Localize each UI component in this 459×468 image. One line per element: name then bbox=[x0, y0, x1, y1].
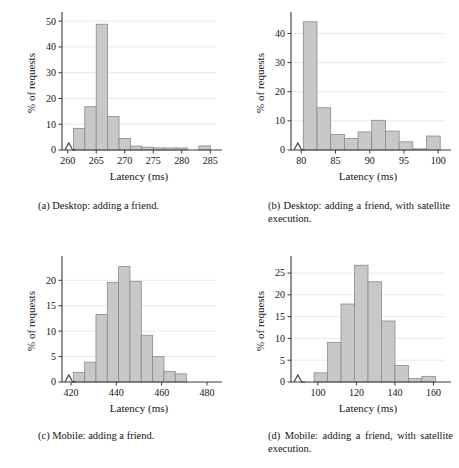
x-tick-label: 90 bbox=[365, 155, 375, 166]
histogram-bar bbox=[368, 282, 381, 382]
y-axis-title-group: % of requests bbox=[25, 291, 37, 351]
histogram-bar bbox=[119, 138, 130, 150]
y-axis-title: % of requests bbox=[25, 291, 37, 351]
x-tick-label: 260 bbox=[60, 155, 75, 166]
x-tick-label: 480 bbox=[199, 387, 214, 398]
chart-panel-a: 01020304050260265270275280285Latency (ms… bbox=[0, 2, 230, 198]
y-axis-title-group: % of requests bbox=[25, 53, 37, 113]
histogram-bar bbox=[355, 265, 368, 382]
bars-c bbox=[73, 267, 186, 382]
y-tick-label: 20 bbox=[46, 93, 56, 104]
histogram-b: 01020304080859095100Latency (ms)% of req… bbox=[229, 2, 459, 198]
y-axis-title-group: % of requests bbox=[254, 291, 266, 351]
x-tick-label: 460 bbox=[154, 387, 169, 398]
histogram-bar bbox=[314, 373, 327, 382]
y-tick-label: 15 bbox=[275, 311, 285, 322]
y-tick-label: 20 bbox=[275, 86, 285, 97]
x-tick-label: 285 bbox=[203, 155, 218, 166]
x-tick-label: 120 bbox=[349, 387, 364, 398]
x-tick-label: 85 bbox=[330, 155, 340, 166]
histogram-bar bbox=[85, 362, 96, 382]
plot-c: 05101520420440460480Latency (ms)% of req… bbox=[0, 248, 230, 428]
histogram-bar bbox=[164, 371, 175, 382]
y-tick-label: 10 bbox=[275, 115, 285, 126]
histogram-bar bbox=[399, 142, 413, 150]
x-tick-label: 80 bbox=[296, 155, 306, 166]
histogram-bar bbox=[427, 136, 441, 150]
y-tick-label: 0 bbox=[280, 376, 285, 387]
histogram-bar bbox=[73, 372, 84, 382]
x-tick-label: 275 bbox=[146, 155, 161, 166]
y-axis-title-group: % of requests bbox=[254, 53, 266, 113]
histogram-c: 05101520420440460480Latency (ms)% of req… bbox=[0, 248, 230, 428]
x-axis-title: Latency (ms) bbox=[339, 402, 398, 415]
y-tick-label: 0 bbox=[280, 144, 285, 155]
histogram-bar bbox=[130, 281, 141, 382]
histogram-bar bbox=[96, 314, 107, 382]
plot-d: 0510152025100120140160Latency (ms)% of r… bbox=[229, 248, 459, 428]
figure-grid: 01020304050260265270275280285Latency (ms… bbox=[0, 0, 459, 468]
histogram-bar bbox=[372, 120, 386, 150]
bars-b bbox=[303, 22, 440, 150]
caption-a: (a) Desktop: adding a friend. bbox=[38, 200, 223, 213]
y-tick-label: 25 bbox=[275, 267, 285, 278]
x-tick-label: 420 bbox=[64, 387, 79, 398]
plot-a: 01020304050260265270275280285Latency (ms… bbox=[0, 2, 230, 198]
histogram-bar bbox=[328, 342, 341, 382]
x-axis-title: Latency (ms) bbox=[339, 170, 398, 183]
chart-panel-b: 01020304080859095100Latency (ms)% of req… bbox=[229, 2, 459, 198]
histogram-bar bbox=[130, 146, 141, 150]
caption-b: (b) Desktop: adding a friend, with satel… bbox=[268, 200, 450, 225]
y-tick-label: 50 bbox=[46, 16, 56, 27]
histogram-bar bbox=[141, 335, 152, 382]
histogram-bar bbox=[73, 128, 84, 150]
histogram-bar bbox=[341, 304, 354, 382]
y-tick-label: 5 bbox=[51, 351, 56, 362]
x-tick-label: 140 bbox=[387, 387, 402, 398]
x-tick-label: 100 bbox=[431, 155, 446, 166]
y-axis-title: % of requests bbox=[254, 53, 266, 113]
y-tick-label: 30 bbox=[46, 67, 56, 78]
histogram-a: 01020304050260265270275280285Latency (ms… bbox=[0, 2, 230, 198]
histogram-bar bbox=[107, 282, 118, 382]
x-axis-title: Latency (ms) bbox=[110, 402, 169, 415]
y-tick-label: 15 bbox=[46, 300, 56, 311]
x-tick-label: 160 bbox=[426, 387, 441, 398]
histogram-bar bbox=[358, 132, 372, 150]
y-tick-label: 0 bbox=[51, 144, 56, 155]
x-tick-label: 100 bbox=[310, 387, 325, 398]
histogram-bar bbox=[96, 24, 107, 150]
x-axis-title: Latency (ms) bbox=[110, 170, 169, 183]
histogram-bar bbox=[331, 135, 345, 150]
bars-a bbox=[73, 24, 210, 150]
histogram-bar bbox=[381, 321, 394, 382]
y-tick-label: 10 bbox=[46, 119, 56, 130]
y-tick-label: 10 bbox=[275, 333, 285, 344]
x-tick-label: 280 bbox=[174, 155, 189, 166]
y-tick-label: 5 bbox=[280, 355, 285, 366]
x-tick-label: 440 bbox=[109, 387, 124, 398]
y-tick-label: 30 bbox=[275, 57, 285, 68]
histogram-bar bbox=[85, 107, 96, 150]
histogram-bar bbox=[303, 22, 317, 150]
histogram-bar bbox=[175, 374, 186, 382]
histogram-bar bbox=[422, 376, 435, 382]
bars-d bbox=[314, 265, 435, 382]
histogram-bar bbox=[344, 138, 358, 150]
y-tick-label: 0 bbox=[51, 376, 56, 387]
histogram-bar bbox=[108, 117, 119, 151]
y-tick-label: 40 bbox=[46, 41, 56, 52]
caption-d: (d) Mobile: adding a friend, with satell… bbox=[268, 430, 453, 455]
y-tick-label: 40 bbox=[275, 28, 285, 39]
caption-c: (c) Mobile: adding a friend. bbox=[38, 430, 223, 443]
plot-b: 01020304080859095100Latency (ms)% of req… bbox=[229, 2, 459, 198]
histogram-bar bbox=[395, 365, 408, 382]
chart-panel-d: 0510152025100120140160Latency (ms)% of r… bbox=[229, 248, 459, 428]
y-tick-label: 20 bbox=[46, 275, 56, 286]
y-axis-title: % of requests bbox=[254, 291, 266, 351]
chart-panel-c: 05101520420440460480Latency (ms)% of req… bbox=[0, 248, 230, 428]
histogram-bar bbox=[317, 108, 331, 150]
histogram-bar bbox=[153, 357, 164, 382]
histogram-bar bbox=[199, 146, 210, 150]
x-tick-label: 95 bbox=[399, 155, 409, 166]
